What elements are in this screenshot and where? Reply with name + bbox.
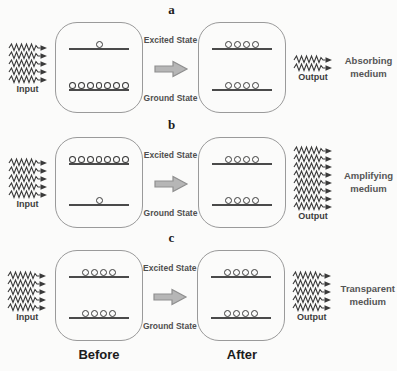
- excited-state-label: Excited State: [140, 35, 201, 45]
- atom-icon: [243, 82, 250, 89]
- atom-icon: [233, 310, 240, 317]
- photon-wave-icon: [8, 189, 48, 197]
- output-group: Output: [286, 137, 340, 228]
- excited-level-line: [69, 276, 129, 278]
- excited-state-label: Excited State: [140, 263, 201, 273]
- before-box: [55, 22, 143, 113]
- ground-level-line: [69, 204, 129, 206]
- atom-icon: [91, 269, 98, 276]
- atom-icon: [122, 156, 129, 163]
- ground-level-line: [212, 89, 272, 91]
- medium-name: Amplifying medium: [340, 137, 397, 228]
- atom-icon: [242, 310, 249, 317]
- excited-atoms: [212, 156, 272, 163]
- photon-wave-icon: [8, 157, 48, 165]
- after-box: [197, 250, 285, 341]
- atom-icon: [234, 41, 241, 48]
- excited-level-line: [212, 163, 272, 165]
- photon-wave-icon: [293, 54, 333, 62]
- atom-icon: [225, 82, 232, 89]
- atom-icon: [243, 41, 250, 48]
- row-letter-b: b: [0, 117, 343, 133]
- atom-icon: [96, 197, 103, 204]
- ground-level-line: [211, 317, 271, 319]
- ground-atoms: [212, 82, 272, 89]
- photon-wave-icon: [8, 66, 48, 74]
- photon-wave-icon: [8, 165, 48, 173]
- photon-wave-icon: [292, 278, 332, 286]
- photon-wave-icon: [7, 278, 47, 286]
- atom-icon: [69, 82, 76, 89]
- ground-atoms: [212, 197, 272, 204]
- atom-icon: [82, 269, 89, 276]
- atom-icon: [225, 156, 232, 163]
- atom-icon: [234, 82, 241, 89]
- photon-wave-icon: [7, 302, 47, 310]
- ground-atoms: [69, 82, 129, 89]
- excited-atoms: [69, 41, 129, 48]
- input-label: Input: [16, 312, 38, 322]
- atom-icon: [224, 269, 231, 276]
- atom-icon: [225, 197, 232, 204]
- atom-icon: [113, 82, 120, 89]
- atom-icon: [251, 269, 258, 276]
- atom-icon: [109, 269, 116, 276]
- medium-name: Transparent medium: [339, 250, 397, 341]
- photon-wave-icon: [292, 294, 332, 302]
- output-label: Output: [298, 72, 328, 82]
- excited-atoms: [69, 156, 129, 163]
- atom-icon: [242, 269, 249, 276]
- input-group: Input: [0, 22, 55, 113]
- excited-level-line: [69, 48, 129, 50]
- atom-icon: [224, 310, 231, 317]
- photon-wave-icon: [8, 74, 48, 82]
- photon-wave-icon: [292, 302, 332, 310]
- atom-icon: [78, 82, 85, 89]
- atom-icon: [100, 269, 107, 276]
- atom-icon: [225, 41, 232, 48]
- input-waves: [8, 42, 48, 82]
- photon-wave-icon: [292, 270, 332, 278]
- row-transparent: c Input Excited State: [0, 250, 397, 341]
- photon-wave-icon: [293, 201, 333, 209]
- atom-icon: [104, 156, 111, 163]
- photon-wave-icon: [8, 50, 48, 58]
- ground-state-label: Ground State: [140, 321, 201, 331]
- atom-icon: [243, 156, 250, 163]
- output-waves: [293, 145, 333, 209]
- atom-icon: [234, 156, 241, 163]
- input-label: Input: [17, 199, 39, 209]
- excited-atoms: [69, 269, 129, 276]
- atom-icon: [96, 41, 103, 48]
- transition-arrow-icon: [153, 174, 189, 194]
- photon-wave-icon: [293, 161, 333, 169]
- atom-icon: [96, 82, 103, 89]
- atom-icon: [243, 197, 250, 204]
- row-letter-c: c: [0, 230, 343, 246]
- photon-wave-icon: [293, 145, 333, 153]
- photon-wave-icon: [7, 286, 47, 294]
- atom-icon: [233, 269, 240, 276]
- atom-icon: [251, 310, 258, 317]
- photon-wave-icon: [8, 181, 48, 189]
- diagram-canvas: a Input Excited State: [0, 0, 397, 371]
- ground-level-line: [212, 204, 272, 206]
- row-absorbing: a Input Excited State: [0, 22, 397, 113]
- ground-atoms: [69, 310, 129, 317]
- input-waves: [7, 270, 47, 310]
- atom-icon: [113, 156, 120, 163]
- ground-level-line: [69, 89, 129, 91]
- photon-wave-icon: [7, 294, 47, 302]
- photon-wave-icon: [293, 169, 333, 177]
- atom-icon: [87, 82, 94, 89]
- input-group: Input: [0, 250, 55, 341]
- atom-icon: [87, 156, 94, 163]
- excited-level-line: [211, 276, 271, 278]
- transition-arrow-icon: [153, 59, 189, 79]
- excited-level-line: [69, 163, 129, 165]
- ground-state-label: Ground State: [140, 208, 201, 218]
- row-amplifying: b Input Excited State: [0, 137, 397, 228]
- output-waves: [292, 270, 332, 310]
- excited-state-label: Excited State: [140, 150, 201, 160]
- row-letter-a: a: [0, 2, 343, 18]
